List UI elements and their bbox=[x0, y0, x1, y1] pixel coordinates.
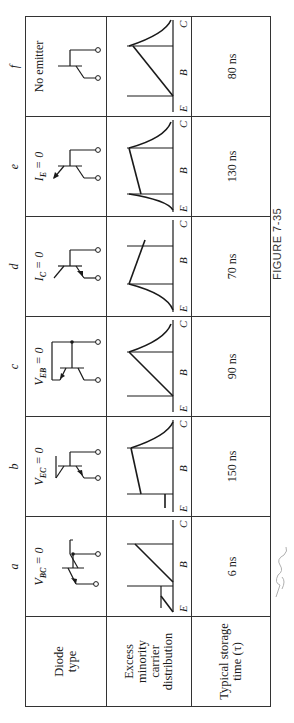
distribution-graph-b: E B C bbox=[107, 417, 192, 517]
cell-diode-b: b VEC = 0 bbox=[26, 417, 107, 517]
distribution-graph-d: E B C bbox=[107, 217, 192, 317]
cell-diode-d: d IC = 0 bbox=[26, 217, 107, 317]
column-letter-c: c bbox=[7, 317, 22, 416]
condition-label-c: VEB = 0 bbox=[32, 317, 48, 416]
cell-diode-c: c VEB = 0 bbox=[26, 317, 107, 417]
svg-text:C: C bbox=[177, 420, 189, 428]
figure-caption: FIGURE 7-35 bbox=[269, 0, 293, 723]
row-header-distribution: Excess minority carrier distribution bbox=[107, 617, 192, 707]
condition-label-b: VEC = 0 bbox=[32, 417, 48, 516]
storage-time-a: 6 ns bbox=[192, 517, 271, 617]
condition-label-d: IC = 0 bbox=[32, 217, 48, 316]
svg-text:E: E bbox=[177, 405, 189, 413]
column-letter-d: d bbox=[7, 217, 22, 316]
row-diode-type: Diode type a VBC = 0 bbox=[26, 17, 107, 707]
column-letter-f: f bbox=[7, 17, 22, 116]
storage-time-f: 80 ns bbox=[192, 17, 271, 117]
svg-text:C: C bbox=[177, 220, 189, 228]
carrier-plot-d: E B C bbox=[107, 216, 191, 316]
carrier-plot-a: E B C bbox=[107, 516, 191, 616]
svg-text:B: B bbox=[177, 257, 189, 264]
carrier-plot-e: E B C bbox=[107, 116, 191, 216]
row-distribution: Excess minority carrier distribution E B… bbox=[107, 17, 192, 707]
cell-diode-a: a VBC = 0 bbox=[26, 517, 107, 617]
carrier-plot-f: E B C bbox=[107, 16, 191, 116]
svg-text:B: B bbox=[177, 167, 189, 174]
condition-label-e: IE = 0 bbox=[32, 117, 48, 216]
cell-diode-e: e IE = 0 bbox=[26, 117, 107, 217]
distribution-graph-c: E B C bbox=[107, 317, 192, 417]
distribution-graph-f: E B C bbox=[107, 17, 192, 117]
column-letter-b: b bbox=[7, 417, 22, 516]
carrier-plot-c: E B C bbox=[107, 316, 191, 416]
svg-text:E: E bbox=[177, 605, 189, 613]
svg-text:C: C bbox=[177, 320, 189, 328]
svg-text:E: E bbox=[177, 305, 189, 313]
svg-text:B: B bbox=[177, 465, 189, 472]
storage-time-b: 150 ns bbox=[192, 417, 271, 517]
distribution-graph-e: E B C bbox=[107, 117, 192, 217]
condition-label-f: No emitter bbox=[32, 17, 47, 116]
distribution-graph-a: E B C bbox=[107, 517, 192, 617]
storage-time-e: 130 ns bbox=[192, 117, 271, 217]
svg-text:E: E bbox=[177, 205, 189, 213]
column-letter-e: e bbox=[7, 117, 22, 216]
figure-table-frame: Diode type a VBC = 0 bbox=[25, 17, 268, 707]
svg-text:C: C bbox=[177, 520, 189, 528]
condition-label-a: VBC = 0 bbox=[32, 517, 48, 616]
svg-text:E: E bbox=[177, 505, 189, 513]
row-header-storage-time: Typical storage time (τ) bbox=[192, 617, 271, 707]
svg-text:B: B bbox=[177, 369, 189, 376]
svg-text:B: B bbox=[177, 69, 189, 76]
cell-diode-f: f No emitter bbox=[26, 17, 107, 117]
svg-text:C: C bbox=[177, 120, 189, 128]
storage-time-c: 90 ns bbox=[192, 317, 271, 417]
svg-text:E: E bbox=[177, 105, 189, 113]
svg-text:C: C bbox=[177, 20, 189, 28]
handwritten-signature bbox=[270, 545, 292, 600]
svg-text:B: B bbox=[177, 561, 189, 568]
row-storage-time: Typical storage time (τ) 6 ns 150 ns 90 … bbox=[192, 17, 271, 707]
column-letter-a: a bbox=[7, 517, 22, 616]
diode-configuration-table: Diode type a VBC = 0 bbox=[25, 16, 271, 707]
storage-time-d: 70 ns bbox=[192, 217, 271, 317]
row-header-diode-type: Diode type bbox=[26, 617, 107, 707]
carrier-plot-b: E B C bbox=[107, 416, 191, 516]
